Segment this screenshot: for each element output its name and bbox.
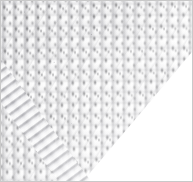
- fabric-photo: Close-up photograph of a light grey knit…: [0, 0, 193, 182]
